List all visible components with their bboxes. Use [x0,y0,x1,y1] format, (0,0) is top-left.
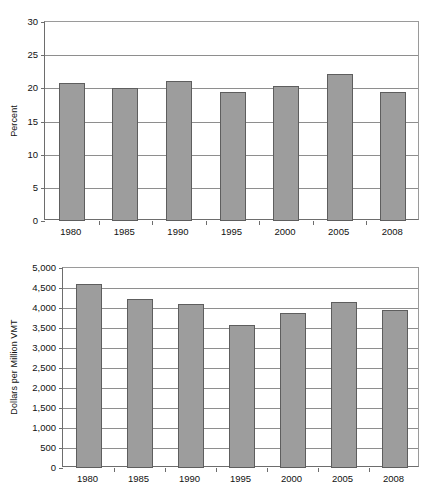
x-axis-tick-label: 2008 [372,226,412,237]
x-axis-tick-label: 1985 [119,473,159,484]
y-axis-tick-label: 2,000 [26,382,56,393]
x-axis-tick-label: 2005 [323,473,363,484]
y-axis-tick-label: 3,000 [26,342,56,353]
y-axis-title-dollars: Dollars per Million VMT [8,297,20,437]
y-axis-tick [41,22,45,23]
x-axis-tick [313,221,314,225]
bar [220,92,246,221]
gridline [63,308,418,309]
y-axis-tick [41,155,45,156]
y-axis-tick-label: 2,500 [26,362,56,373]
x-axis-tick-label: 1990 [158,226,198,237]
bar [331,302,357,468]
x-axis-tick [318,468,319,472]
y-axis-tick-label: 5,000 [26,262,56,273]
y-axis-tick [59,288,63,289]
y-axis-tick-label: 30 [22,16,38,27]
x-axis-tick-label: 1980 [51,226,91,237]
y-axis-tick [41,88,45,89]
y-axis-tick-label: 1,500 [26,402,56,413]
bar [273,86,299,221]
x-axis-tick [366,221,367,225]
y-axis-tick [59,308,63,309]
y-axis-tick [59,348,63,349]
x-axis-tick [216,468,217,472]
x-axis-tick-label: 2005 [319,226,359,237]
x-axis-tick-label: 2008 [374,473,414,484]
figure-two-bar-charts: Percent 051015202530 1980198519901995200… [0,0,427,498]
bar [166,81,192,221]
y-axis-tick-label: 25 [22,49,38,60]
y-axis-tick [41,122,45,123]
y-axis-tick [59,368,63,369]
x-axis-tick-label: 1985 [104,226,144,237]
y-axis-tick-label: 3,500 [26,322,56,333]
x-axis-tick-label: 1995 [212,226,252,237]
y-axis-tick-label: 4,000 [26,302,56,313]
y-axis-tick [59,408,63,409]
x-axis-tick [206,221,207,225]
y-axis-tick [59,328,63,329]
y-axis-tick [41,55,45,56]
y-axis-tick-label: 500 [26,442,56,453]
y-axis-tick-label: 5 [22,181,38,192]
x-axis-tick-label: 1990 [170,473,210,484]
y-axis-title-percent: Percent [8,86,20,156]
y-axis-tick-label: 15 [22,115,38,126]
bar [59,83,85,221]
bar [229,325,255,468]
y-axis-tick [59,388,63,389]
dollars-bar-chart: Dollars per Million VMT 05001,0001,5002,… [0,250,427,498]
bar [127,299,153,468]
bar [76,284,102,468]
y-axis-tick [41,188,45,189]
y-axis-tick-label: 0 [26,462,56,473]
y-axis-tick-label: 20 [22,82,38,93]
percent-bar-chart: Percent 051015202530 1980198519901995200… [0,0,427,248]
y-axis-tick [59,448,63,449]
gridline [63,288,418,289]
plot-area-dollars [62,267,419,467]
y-axis-tick [41,221,45,222]
y-axis-tick-label: 1,000 [26,422,56,433]
bar [380,92,406,221]
bar [178,304,204,468]
x-axis-tick [152,221,153,225]
x-axis-tick [369,468,370,472]
bar [382,310,408,468]
y-axis-tick-label: 4,500 [26,282,56,293]
x-axis-tick-label: 2000 [272,473,312,484]
y-axis-tick-label: 10 [22,148,38,159]
gridline [45,55,418,56]
y-axis-tick-label: 0 [22,215,38,226]
bar [112,88,138,221]
y-axis-tick [59,268,63,269]
x-axis-tick-label: 1995 [221,473,261,484]
bar [280,313,306,468]
y-axis-tick [59,428,63,429]
x-axis-tick [259,221,260,225]
bar [327,74,353,221]
x-axis-tick [99,221,100,225]
x-axis-tick-label: 2000 [265,226,305,237]
x-axis-tick [267,468,268,472]
x-axis-tick [165,468,166,472]
gridline [45,88,418,89]
y-axis-tick [59,468,63,469]
x-axis-tick-label: 1980 [68,473,108,484]
x-axis-tick [114,468,115,472]
plot-area-percent [44,21,419,220]
